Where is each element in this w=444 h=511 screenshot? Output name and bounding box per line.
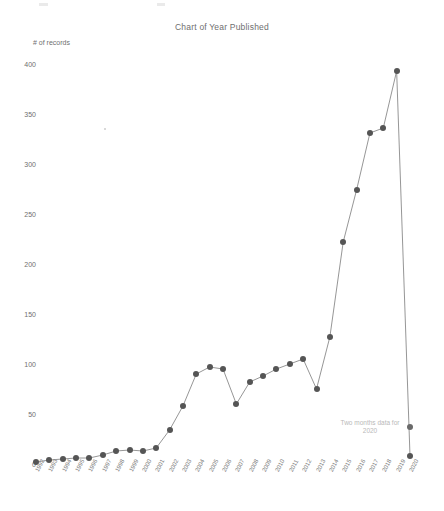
data-point[interactable] [113,448,119,454]
data-point[interactable] [220,366,226,372]
data-point[interactable] [354,187,360,193]
annotation-2020: Two months data for 2020 [330,419,410,435]
data-point[interactable] [287,361,293,367]
data-point[interactable] [127,447,133,453]
data-point[interactable] [153,445,159,451]
data-point[interactable] [407,453,413,459]
chart-canvas: Chart of Year Published # of records 050… [0,0,444,511]
data-point[interactable] [140,448,146,454]
data-point[interactable] [327,334,333,340]
data-point[interactable] [273,366,279,372]
data-point[interactable] [380,125,386,131]
data-point[interactable] [193,371,199,377]
data-point[interactable] [367,130,373,136]
data-point[interactable] [260,373,266,379]
annotation-marker [407,424,413,430]
data-point[interactable] [314,386,320,392]
data-point[interactable] [340,239,346,245]
data-point[interactable] [180,403,186,409]
data-point[interactable] [247,379,253,385]
data-point[interactable] [233,401,239,407]
data-point[interactable] [394,68,400,74]
data-point[interactable] [100,452,106,458]
data-point[interactable] [207,364,213,370]
data-point[interactable] [300,356,306,362]
data-point[interactable] [167,427,173,433]
